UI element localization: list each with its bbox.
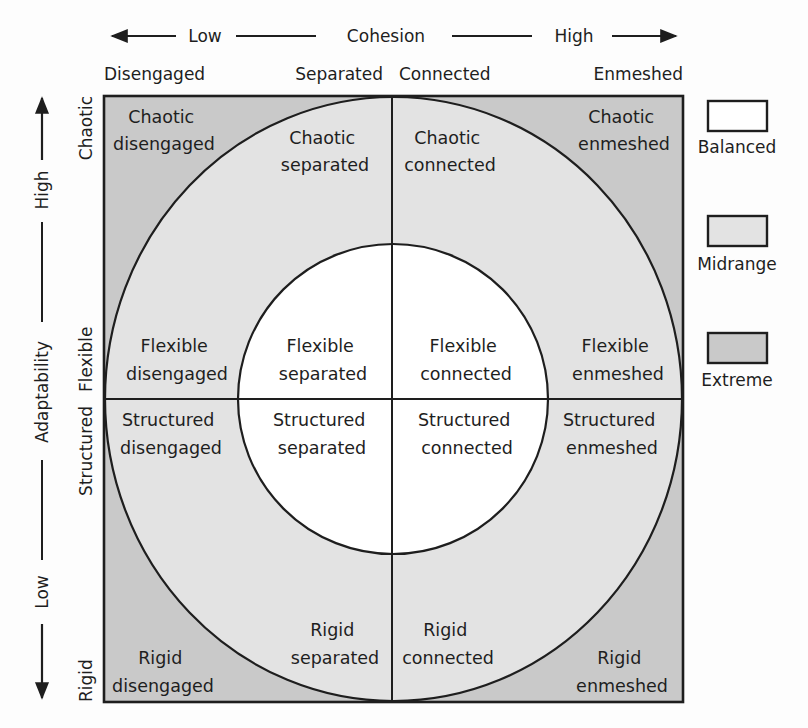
cohesion-low-label: Low (188, 26, 222, 46)
level-structured: Structured (76, 406, 96, 496)
cohesion-high-label: High (554, 26, 593, 46)
level-enmeshed: Enmeshed (594, 64, 683, 84)
level-separated: Separated (295, 64, 383, 84)
legend-swatch-extreme (708, 333, 767, 363)
cohesion-axis: Low Cohesion High Disengaged Separated C… (104, 26, 683, 84)
level-connected: Connected (399, 64, 491, 84)
legend-label-extreme: Extreme (701, 370, 773, 390)
adaptability-low-label: Low (32, 575, 52, 609)
level-disengaged: Disengaged (104, 64, 205, 84)
level-flexible: Flexible (76, 327, 96, 392)
legend: Balanced Midrange Extreme (697, 101, 777, 390)
model-grid (104, 96, 683, 702)
level-rigid: Rigid (76, 659, 96, 702)
legend-swatch-midrange (708, 216, 767, 246)
adaptability-axis: High Adaptability Low Chaotic Flexible S… (32, 96, 96, 702)
legend-swatch-balanced (708, 101, 767, 131)
cohesion-title: Cohesion (347, 26, 425, 46)
level-chaotic: Chaotic (76, 96, 96, 160)
legend-label-midrange: Midrange (697, 254, 777, 274)
circumplex-diagram: Low Cohesion High Disengaged Separated C… (0, 0, 808, 728)
adaptability-high-label: High (32, 170, 52, 209)
legend-label-balanced: Balanced (698, 137, 777, 157)
adaptability-title: Adaptability (32, 341, 52, 443)
